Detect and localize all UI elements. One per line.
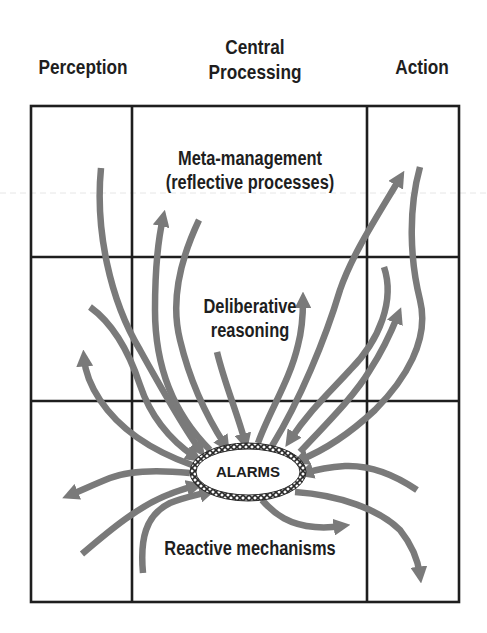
layer-label-meta-management: Meta-management (reflective processes) — [148, 147, 353, 194]
column-header-action: Action — [377, 55, 467, 80]
layer-label-deliberative-line1: Deliberative — [189, 295, 312, 319]
layer-label-reactive: Reactive mechanisms — [156, 537, 345, 561]
layer-label-deliberative: Deliberative reasoning — [189, 295, 312, 342]
arrow-action-meta-to-alarms — [300, 167, 422, 460]
alarms-label: ALARMS — [198, 463, 298, 480]
arrow-action-to-alarms — [305, 466, 417, 490]
arrow-deliberative-to-alarms — [217, 352, 245, 442]
layer-label-meta-line2: (reflective processes) — [148, 171, 353, 195]
column-header-central: Central Processing — [185, 35, 324, 85]
column-header-perception: Perception — [30, 55, 137, 80]
arrow-alarms-to-action-reactive — [295, 492, 420, 575]
layer-label-deliberative-line2: reasoning — [189, 319, 312, 343]
column-header-central-line1: Central — [185, 35, 324, 60]
arrows — [70, 167, 422, 575]
column-header-central-line2: Processing — [185, 60, 324, 85]
arrow-alarms-to-reactive — [262, 500, 342, 527]
architecture-diagram: Perception Central Processing Action Met… — [0, 0, 487, 633]
layer-label-meta-line1: Meta-management — [148, 147, 353, 171]
